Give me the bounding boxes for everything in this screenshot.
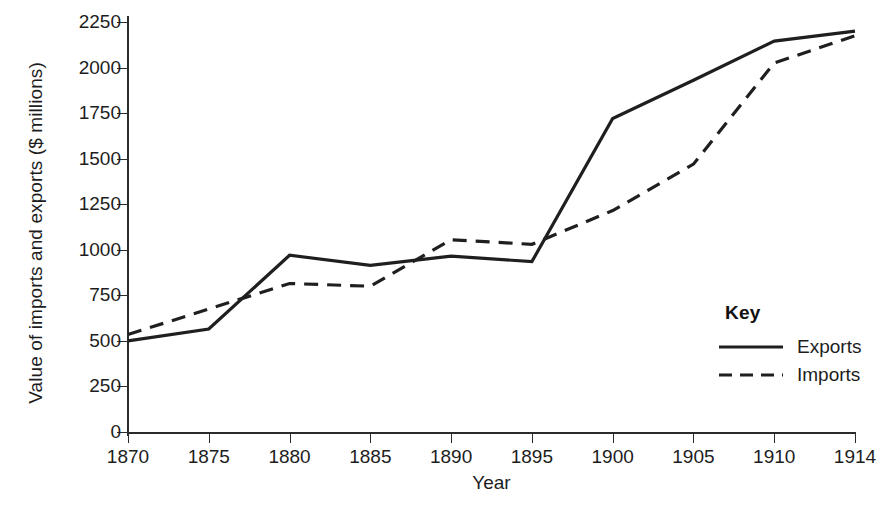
- line-chart: Value of imports and exports ($ millions…: [0, 0, 889, 510]
- x-tick-label: 1914: [834, 446, 876, 468]
- x-tick-label: 1910: [753, 446, 795, 468]
- y-tick-label: 2000: [79, 57, 121, 79]
- y-tick-label: 1000: [79, 239, 121, 261]
- y-tick-label: 500: [89, 330, 121, 352]
- x-tick-label: 1905: [672, 446, 714, 468]
- y-tick-label: 1500: [79, 148, 121, 170]
- x-tick-mark: [532, 432, 533, 443]
- x-axis-title: Year: [128, 472, 855, 494]
- x-tick-label: 1875: [188, 446, 230, 468]
- legend-swatch-dashed-line-icon: [717, 368, 785, 382]
- x-tick-mark: [370, 432, 371, 443]
- x-tick-mark: [613, 432, 614, 443]
- y-tick-label: 0: [110, 421, 121, 443]
- x-tick-mark: [693, 432, 694, 443]
- y-tick-label: 2250: [79, 11, 121, 33]
- legend-swatch-solid-line-icon: [717, 340, 785, 354]
- x-tick-label: 1870: [107, 446, 149, 468]
- x-tick-mark: [128, 432, 129, 443]
- x-tick-mark: [209, 432, 210, 443]
- legend: Key Exports Imports: [717, 302, 877, 389]
- y-tick-label: 250: [89, 375, 121, 397]
- series-line-exports: [128, 31, 855, 341]
- x-tick-mark: [290, 432, 291, 443]
- y-tick-label: 1750: [79, 102, 121, 124]
- x-tick-label: 1885: [349, 446, 391, 468]
- x-tick-mark: [855, 432, 856, 443]
- series-line-imports: [128, 36, 855, 335]
- x-axis-line: [127, 432, 856, 434]
- y-tick-label: 1250: [79, 193, 121, 215]
- legend-item-exports: Exports: [717, 333, 877, 361]
- legend-label-imports: Imports: [797, 364, 860, 386]
- legend-label-exports: Exports: [797, 336, 861, 358]
- y-tick-label: 750: [89, 284, 121, 306]
- x-tick-label: 1890: [430, 446, 472, 468]
- x-tick-mark: [774, 432, 775, 443]
- legend-item-imports: Imports: [717, 361, 877, 389]
- y-axis-title: Value of imports and exports ($ millions…: [25, 23, 59, 443]
- x-tick-label: 1880: [268, 446, 310, 468]
- x-tick-label: 1895: [511, 446, 553, 468]
- x-tick-label: 1900: [592, 446, 634, 468]
- legend-title: Key: [725, 302, 877, 324]
- x-tick-mark: [451, 432, 452, 443]
